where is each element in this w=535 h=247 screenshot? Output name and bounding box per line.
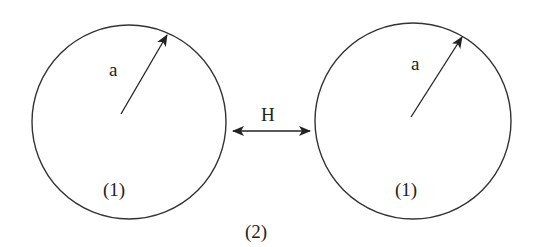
diagram-canvas: a (1) a (1) H (2) [0, 0, 535, 247]
left-radius-arrow [121, 35, 167, 114]
right-radius-label: a [411, 54, 419, 73]
left-radius-label: a [109, 60, 117, 79]
gap-label: H [261, 105, 275, 124]
left-region-label: (1) [103, 180, 125, 199]
left-sphere [32, 25, 226, 219]
right-radius-arrow [411, 37, 462, 117]
medium-label: (2) [245, 222, 267, 241]
right-region-label: (1) [395, 180, 417, 199]
